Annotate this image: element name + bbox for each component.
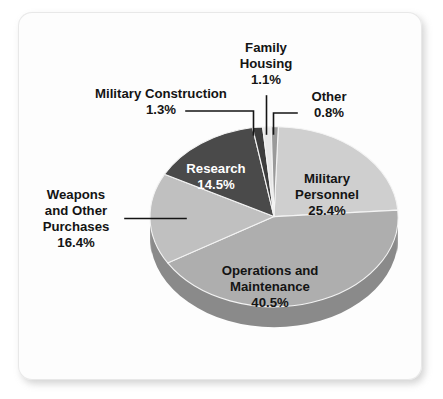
label-weapons-and-other-purchases: Weapons and Other Purchases 16.4% (43, 187, 110, 250)
label-operations-line2: Maintenance (230, 279, 310, 294)
label-military-construction-line1: Military Construction (95, 86, 227, 101)
label-other: Other 0.8% (311, 89, 346, 120)
figure-card: Family Housing 1.1% Military Constructio… (0, 0, 443, 399)
label-operations-line1: Operations and (222, 263, 319, 278)
label-research-line1: Research (186, 161, 245, 176)
label-weapons-line1: Weapons (47, 187, 105, 202)
label-operations-value: 40.5% (251, 295, 289, 310)
label-military-construction: Military Construction 1.3% (95, 86, 227, 117)
label-military-personnel-line2: Personnel (295, 187, 359, 202)
label-weapons-line3: Purchases (43, 219, 110, 234)
label-research-value: 14.5% (197, 177, 235, 192)
label-family-housing-line2: Housing (240, 56, 293, 71)
pie-chart: Family Housing 1.1% Military Constructio… (0, 0, 443, 399)
label-other-line1: Other (311, 89, 346, 104)
label-military-construction-value: 1.3% (146, 102, 176, 117)
label-military-personnel-line1: Military (304, 171, 351, 186)
label-other-value: 0.8% (314, 105, 344, 120)
label-military-personnel-value: 25.4% (308, 203, 346, 218)
label-weapons-value: 16.4% (57, 235, 95, 250)
label-family-housing-line1: Family (245, 40, 287, 55)
pie-chart-svg: Family Housing 1.1% Military Constructio… (0, 0, 443, 399)
label-family-housing-value: 1.1% (251, 72, 281, 87)
label-weapons-line2: and Other (45, 203, 107, 218)
label-family-housing: Family Housing 1.1% (240, 40, 293, 87)
